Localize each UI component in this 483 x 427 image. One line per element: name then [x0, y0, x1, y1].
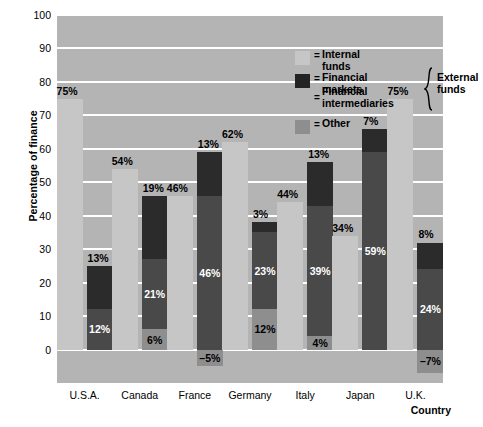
legend-swatch-internal — [295, 51, 310, 65]
bar-external-U.S.A.: 12% — [87, 266, 113, 350]
bar-segment-internal — [332, 236, 358, 350]
y-axis-tick-10: 10 — [18, 310, 51, 322]
y-axis-tick-0: 0 — [18, 344, 51, 356]
bar-value-other-Germany: 12% — [252, 323, 278, 335]
bar-value-markets-France: 13% — [198, 138, 219, 150]
bar-value-markets-Canada: 19% — [143, 182, 164, 194]
legend-equals-sign: = — [314, 50, 320, 61]
y-axis-tick-20: 20 — [18, 277, 51, 289]
bar-segment-markets — [417, 243, 443, 270]
bar-internal-U.S.A. — [57, 99, 83, 350]
external-funds-brace — [424, 67, 434, 111]
bar-value-intermediaries-U.S.A.: 12% — [87, 323, 113, 335]
x-axis-tick-U.K.: U.K. — [405, 389, 425, 401]
bar-value-internal-France: 46% — [167, 182, 188, 194]
legend-swatch-intermediaries — [295, 93, 310, 107]
bar-internal-Italy — [277, 202, 303, 349]
bar-internal-Japan — [332, 236, 358, 350]
x-axis-tick-France: France — [179, 389, 212, 401]
bar-value-internal-Italy: 44% — [277, 188, 298, 200]
bar-external-Germany: 12%23% — [252, 222, 278, 349]
bar-value-intermediaries-Canada: 21% — [142, 288, 168, 300]
chart-legend: External funds =Internal funds=Financial… — [295, 49, 483, 141]
x-axis-tick-Japan: Japan — [346, 389, 375, 401]
bar-value-markets-Germany: 3% — [253, 208, 268, 220]
legend-equals-sign: = — [314, 92, 320, 103]
legend-label-other: Other — [322, 118, 350, 130]
y-axis-tick-90: 90 — [18, 42, 51, 54]
x-axis-tick-Canada: Canada — [121, 389, 158, 401]
bar-value-markets-U.S.A.: 13% — [88, 252, 109, 264]
plot-area: 75%12%13%54%6%21%19%46%46%13%–5%62%12%23… — [57, 15, 443, 383]
bar-external-Italy: 4%39% — [307, 162, 333, 349]
bar-value-internal-U.S.A.: 75% — [57, 85, 78, 97]
legend-equals-sign: = — [314, 73, 320, 84]
x-axis-tick-U.S.A.: U.S.A. — [69, 389, 99, 401]
bar-value-other-Canada: 6% — [142, 334, 168, 346]
external-funds-label: External funds — [437, 71, 478, 95]
bar-value-intermediaries-Japan: 59% — [362, 245, 388, 257]
gridline — [57, 14, 443, 16]
legend-label-internal: Internal funds — [322, 49, 360, 72]
bar-segment-internal — [277, 202, 303, 349]
bar-segment-markets — [307, 162, 333, 205]
legend-swatch-markets — [295, 74, 310, 88]
y-axis-title: Percentage of finance — [27, 81, 39, 251]
bar-segment-markets — [197, 152, 223, 195]
bar-internal-France — [167, 196, 193, 350]
bar-segment-markets — [87, 266, 113, 309]
bar-segment-internal — [167, 196, 193, 350]
bar-segment-internal — [57, 99, 83, 350]
x-axis-tick-Germany: Germany — [228, 389, 271, 401]
bar-value-markets-Italy: 13% — [308, 148, 329, 160]
bar-value-intermediaries-Italy: 39% — [307, 265, 333, 277]
bar-segment-internal — [112, 169, 138, 350]
bar-value-internal-Germany: 62% — [222, 128, 243, 140]
bar-external-U.K.: 24% — [417, 243, 443, 350]
bar-segment-markets — [142, 196, 168, 260]
x-axis-title: Country — [411, 404, 451, 416]
bar-value-internal-Japan: 34% — [332, 222, 353, 234]
bar-value-other-Italy: 4% — [307, 337, 333, 349]
bar-value-internal-Canada: 54% — [112, 155, 133, 167]
bar-segment-markets — [252, 222, 278, 232]
x-axis-tick-Italy: Italy — [296, 389, 315, 401]
bar-value-intermediaries-Germany: 23% — [252, 265, 278, 277]
bar-value-other-U.K.: –7% — [417, 355, 443, 367]
bar-value-intermediaries-France: 46% — [197, 267, 223, 279]
legend-label-intermediaries: Financial intermediaries — [322, 86, 394, 109]
bar-segment-internal — [222, 142, 248, 349]
legend-equals-sign: = — [314, 119, 320, 130]
bar-value-intermediaries-U.K.: 24% — [417, 303, 443, 315]
bar-value-markets-U.K.: 8% — [418, 228, 433, 240]
bar-internal-Germany — [222, 142, 248, 349]
y-axis-tick-100: 100 — [18, 9, 51, 21]
bar-external-Japan: 59% — [362, 129, 388, 350]
legend-swatch-other — [295, 120, 310, 134]
bar-external-France: 46% — [197, 152, 223, 349]
bar-value-other-France: –5% — [197, 352, 223, 364]
bar-internal-Canada — [112, 169, 138, 350]
bar-external-Canada: 6%21% — [142, 196, 168, 350]
